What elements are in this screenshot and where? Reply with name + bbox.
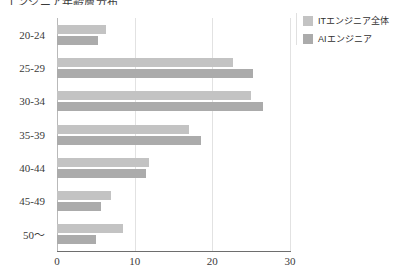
legend-item-label: AIエンジニア (318, 32, 372, 45)
y-tick-label: 50～ (23, 226, 45, 242)
bar (57, 169, 146, 178)
chart-legend: ITエンジニア全体AIエンジニア (303, 14, 398, 50)
bar (57, 25, 106, 34)
bar (57, 36, 98, 45)
chart-title: エンジニア年齢層分布 (6, 0, 246, 5)
y-tick-label: 35-39 (19, 129, 45, 141)
x-tick-label: 30 (285, 255, 296, 267)
x-axis-tick-labels: 0102030 (57, 255, 291, 271)
bar (57, 136, 201, 145)
x-axis-line (57, 251, 291, 252)
bar (57, 202, 101, 211)
bar-group (57, 158, 290, 178)
legend-divider (296, 13, 297, 45)
bar (57, 158, 149, 167)
bar-group (57, 58, 290, 78)
y-tick-label: 45-49 (19, 195, 45, 207)
bar-group (57, 224, 290, 244)
bar (57, 69, 253, 78)
x-tick-label: 20 (207, 255, 218, 267)
bar (57, 125, 189, 134)
bar (57, 102, 263, 111)
bar (57, 191, 111, 200)
legend-item-label: ITエンジニア全体 (318, 14, 389, 27)
y-tick-label: 25-29 (19, 62, 45, 74)
bar-group (57, 25, 290, 45)
bar (57, 91, 251, 100)
bar-group (57, 191, 290, 211)
y-tick-label: 20-24 (19, 29, 45, 41)
plot-area (57, 18, 290, 251)
bar-group (57, 91, 290, 111)
y-tick-label: 40-44 (19, 162, 45, 174)
y-tick-label: 30-34 (19, 95, 45, 107)
legend-swatch-icon (303, 34, 313, 44)
gridline (290, 18, 291, 251)
bar-group (57, 125, 290, 145)
legend-item[interactable]: AIエンジニア (303, 32, 398, 45)
x-tick-label: 0 (54, 255, 60, 267)
bar (57, 224, 123, 233)
bar-chart: エンジニア年齢層分布 20-2425-2930-3435-3940-4445-4… (0, 0, 398, 278)
legend-item[interactable]: ITエンジニア全体 (303, 14, 398, 27)
x-tick-label: 10 (129, 255, 140, 267)
bar (57, 58, 233, 67)
bar (57, 235, 96, 244)
y-axis-tick-labels: 20-2425-2930-3435-3940-4445-4950～ (0, 18, 51, 251)
legend-swatch-icon (303, 16, 313, 26)
